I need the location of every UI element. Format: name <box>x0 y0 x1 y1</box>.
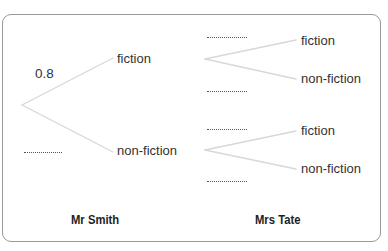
branch-smith-non-fiction <box>22 105 113 152</box>
person-label-mrs-tate: Mrs Tate <box>255 213 300 227</box>
outcome-tate-non-fiction-after-non-fiction: non-fiction <box>301 162 361 176</box>
outcome-tate-non-fiction-after-fiction: non-fiction <box>301 72 361 86</box>
outcome-tate-fiction-after-non-fiction: fiction <box>301 124 335 138</box>
branch-tate-fiction-after-non-fiction <box>205 131 296 150</box>
branch-tate-non-fiction-after-non-fiction <box>205 150 296 169</box>
outcome-smith-non-fiction: non-fiction <box>117 144 177 158</box>
answer-blank-tate-fiction-after-fiction[interactable] <box>207 37 247 38</box>
answer-blank-smith-non-fiction[interactable] <box>24 152 62 153</box>
branch-tate-fiction-after-fiction <box>205 40 296 59</box>
probability-smith-fiction: 0.8 <box>35 67 54 81</box>
answer-blank-tate-non-fiction-after-fiction[interactable] <box>207 91 247 92</box>
branch-tate-non-fiction-after-fiction <box>205 59 296 79</box>
person-label-mr-smith: Mr Smith <box>71 213 119 227</box>
answer-blank-tate-non-fiction-after-non-fiction[interactable] <box>207 181 247 182</box>
answer-blank-tate-fiction-after-non-fiction[interactable] <box>207 129 247 130</box>
outcome-tate-fiction-after-fiction: fiction <box>301 34 335 48</box>
outcome-smith-fiction: fiction <box>117 52 151 66</box>
